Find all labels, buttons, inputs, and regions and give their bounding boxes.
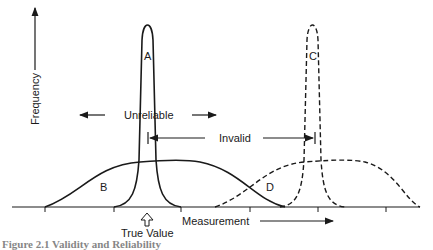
invalid-label: Invalid: [219, 132, 251, 144]
curve-c-label: C: [309, 50, 317, 62]
curve-b: [45, 160, 285, 207]
unreliable-label: Unreliable: [124, 109, 174, 121]
curve-a-label: A: [144, 50, 152, 62]
x-axis-label: Measurement: [182, 215, 249, 227]
true-value-arrow-icon: [141, 213, 153, 226]
curve-d-label: D: [266, 181, 274, 193]
y-axis-label: Frequency: [29, 73, 41, 125]
figure-caption: Figure 2.1 Validity and Reliability: [2, 238, 161, 250]
x-axis: [12, 207, 420, 212]
curve-b-label: B: [100, 181, 107, 193]
